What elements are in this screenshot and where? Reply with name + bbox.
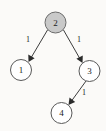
arrowhead-icon-edge-3-4	[69, 98, 76, 105]
arrowhead-icon-edge-2-3	[76, 56, 82, 63]
edge-weight-3-4: 1	[82, 88, 86, 97]
node-label-2: 2	[53, 18, 58, 28]
graph-node-3[interactable]: 3	[79, 61, 100, 82]
edge-3-to-4: 1	[69, 81, 87, 105]
arrowhead-icon-edge-2-1	[28, 55, 34, 62]
graph-figure: 1 1 1 2 1 3	[0, 0, 106, 131]
graph-node-4[interactable]: 4	[51, 103, 72, 124]
node-label-1: 1	[19, 65, 24, 75]
graph-node-2[interactable]: 2	[45, 12, 66, 33]
node-label-3: 3	[87, 66, 92, 76]
edge-2-to-3: 1	[64, 30, 83, 63]
graph-canvas: 1 1 1 2 1 3	[0, 0, 106, 131]
graph-node-1[interactable]: 1	[11, 60, 32, 81]
edge-2-to-1: 1	[26, 30, 48, 62]
edge-line-2-1	[32, 30, 48, 57]
node-label-4: 4	[59, 108, 64, 118]
edge-weight-2-3: 1	[77, 35, 81, 44]
edge-weight-2-1: 1	[26, 35, 30, 44]
